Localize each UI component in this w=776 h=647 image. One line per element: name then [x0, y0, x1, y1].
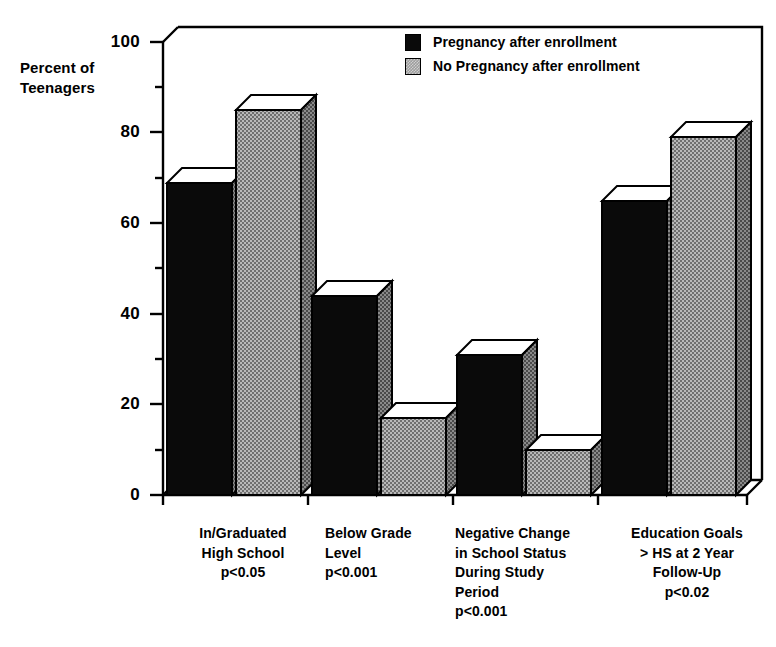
x-cat4-line4: p<0.02: [612, 583, 762, 603]
legend-item-no-pregnancy[interactable]: No Pregnancy after enrollment: [405, 54, 640, 78]
x-cat3-line3: During Study: [455, 563, 605, 583]
x-cat2-line2: Level: [325, 544, 455, 564]
x-category-label-2: Below Grade Level p<0.001: [325, 524, 455, 583]
bar-g4-no-pregnancy: [671, 122, 751, 495]
x-cat4-line1: Education Goals: [612, 524, 762, 544]
x-cat1-line2: High School: [173, 544, 313, 564]
x-category-label-4: Education Goals > HS at 2 Year Follow-Up…: [612, 524, 762, 602]
x-cat3-line2: in School Status: [455, 544, 605, 564]
chart-figure: Percent of Teenagers: [0, 0, 776, 647]
legend: Pregnancy after enrollment No Pregnancy …: [405, 30, 640, 78]
bar-g3-no-pregnancy: [526, 435, 606, 495]
x-cat2-line3: p<0.001: [325, 563, 455, 583]
bar-g1-no-pregnancy: [236, 95, 316, 495]
x-cat3-line4: Period: [455, 583, 605, 603]
y-tick-label-40: 40: [88, 304, 140, 324]
x-cat1-line1: In/Graduated: [173, 524, 313, 544]
legend-label-no-pregnancy: No Pregnancy after enrollment: [433, 58, 640, 74]
x-cat4-line2: > HS at 2 Year: [612, 544, 762, 564]
y-tick-label-20: 20: [88, 394, 140, 414]
bar-g2-no-pregnancy: [381, 403, 461, 495]
bar-group-4: [602, 122, 751, 495]
x-axis-ticks: [163, 495, 747, 505]
bar-group-1: [167, 95, 316, 495]
legend-swatch-black-icon: [405, 34, 421, 51]
legend-swatch-gray-icon: [405, 58, 421, 75]
bar-group-2: [312, 281, 461, 495]
x-cat2-line1: Below Grade: [325, 524, 455, 544]
y-tick-label-60: 60: [88, 213, 140, 233]
y-axis-ticks: [150, 42, 163, 495]
bar-group-3: [457, 340, 606, 495]
x-category-label-1: In/Graduated High School p<0.05: [173, 524, 313, 583]
y-tick-label-100: 100: [88, 32, 140, 52]
x-cat3-line5: p<0.001: [455, 602, 605, 622]
x-cat1-line3: p<0.05: [173, 563, 313, 583]
legend-item-pregnancy[interactable]: Pregnancy after enrollment: [405, 30, 640, 54]
x-cat3-line1: Negative Change: [455, 524, 605, 544]
x-cat4-line3: Follow-Up: [612, 563, 762, 583]
y-tick-label-80: 80: [88, 122, 140, 142]
legend-label-pregnancy: Pregnancy after enrollment: [433, 34, 617, 50]
y-tick-label-0: 0: [88, 485, 140, 505]
x-category-label-3: Negative Change in School Status During …: [455, 524, 605, 622]
